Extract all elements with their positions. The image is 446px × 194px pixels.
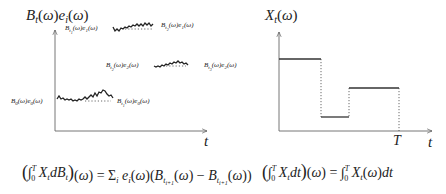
diagram-canvas: Bt(ω)ei(ω) t B0(ω)e0(ω) Bt1(ω)e0(ω) Bt1(… xyxy=(0,0,446,194)
terminal-time-label: T xyxy=(393,133,402,148)
left-plot: Bt(ω)ei(ω) t B0(ω)e0(ω) Bt1(ω)e0(ω) Bt1(… xyxy=(11,7,237,149)
svg-text:(∫T0 Xtdt)(ω) = ∫T0 Xt(ω)dt: (∫T0 Xtdt)(ω) = ∫T0 Xt(ω)dt xyxy=(262,161,394,183)
formula-stochastic-integral: (∫T0 XtdBt)(ω) = Σi ei(ω)(Bti+1(ω) − Bti… xyxy=(22,162,252,186)
segment-0-end-label: Bt1(ω)e0(ω) xyxy=(117,97,150,108)
right-y-axis-label: Xt(ω) xyxy=(264,7,298,25)
formula-riemann-integral: (∫T0 Xtdt)(ω) = ∫T0 Xt(ω)dt xyxy=(262,161,394,183)
segment-1-end-label: Bt2(ω)e1(ω) xyxy=(161,21,194,32)
right-plot: Xt(ω) t T xyxy=(264,7,433,150)
left-x-axis-label: t xyxy=(204,133,209,149)
brownian-path-segment-0 xyxy=(57,90,113,101)
right-x-axis-label: t xyxy=(428,134,433,150)
segment-1-start-label: Bt1(ω)e1(ω) xyxy=(65,24,98,35)
brownian-path-segment-1 xyxy=(113,23,153,31)
left-y-axis-label: Bt(ω)ei(ω) xyxy=(26,7,89,25)
segment-2-start-label: Bt2(ω)e2(ω) xyxy=(106,61,139,72)
svg-text:(∫T0 XtdBt)(ω) = Σi ei(ω)(Bti+: (∫T0 XtdBt)(ω) = Σi ei(ω)(Bti+1(ω) − Bti… xyxy=(22,162,252,186)
segment-2-end-label: Bt3(ω)e2(ω) xyxy=(204,61,237,72)
segment-0-start-label: B0(ω)e0(ω) xyxy=(11,97,43,106)
